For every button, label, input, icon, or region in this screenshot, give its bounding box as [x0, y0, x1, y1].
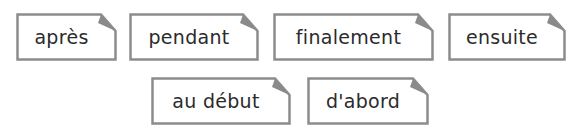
word-card-label: après [16, 13, 103, 61]
word-card-apres[interactable]: après [16, 13, 117, 61]
word-card-ensuite[interactable]: ensuite [448, 13, 566, 61]
word-card-pendant[interactable]: pendant [129, 13, 259, 61]
word-card-label: ensuite [448, 13, 552, 61]
word-card-label: au début [151, 77, 277, 125]
word-card-label: pendant [129, 13, 245, 61]
word-card-label: finalement [273, 13, 420, 61]
word-card-dabord[interactable]: d'abord [307, 77, 429, 125]
word-card-label: d'abord [307, 77, 415, 125]
word-card-finalement[interactable]: finalement [273, 13, 434, 61]
word-card-au-debut[interactable]: au début [151, 77, 291, 125]
